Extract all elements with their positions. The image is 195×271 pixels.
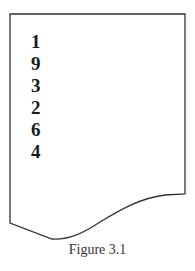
list-item: 9 bbox=[31, 53, 41, 75]
list-item: 4 bbox=[31, 141, 41, 163]
list-item: 6 bbox=[31, 119, 41, 141]
list-item: 2 bbox=[31, 97, 41, 119]
list-item: 1 bbox=[31, 31, 41, 53]
list-item: 3 bbox=[31, 75, 41, 97]
figure-caption: Figure 3.1 bbox=[0, 242, 195, 258]
number-list: 1 9 3 2 6 4 bbox=[31, 31, 41, 163]
document-page-shape bbox=[0, 0, 195, 271]
